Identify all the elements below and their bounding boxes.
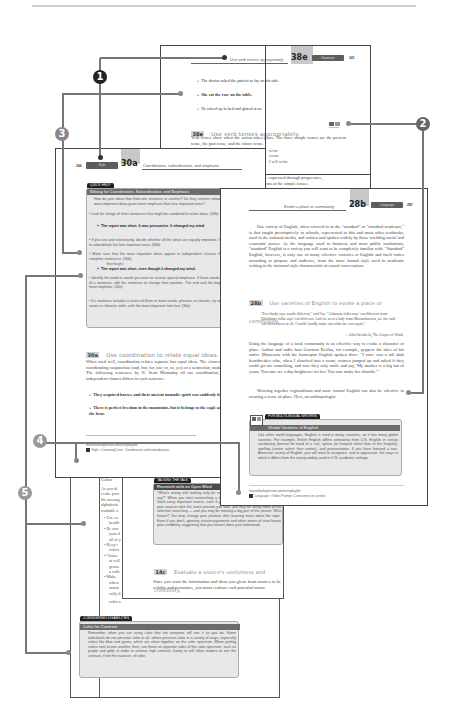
38e-notch (318, 45, 336, 49)
30a-header-title: Coordination, subordination, and emphasi… (143, 163, 219, 168)
28b-tab-pill: Language (371, 202, 403, 208)
28b-header-rule (249, 210, 346, 211)
section-badge: 30a (86, 352, 99, 358)
callout-3-dot-top (178, 91, 183, 96)
30a-page-number: 306 (76, 164, 82, 168)
callout-3-line-top (62, 93, 182, 95)
section-badge: 28b (249, 300, 263, 306)
callout-5-dot-mid (81, 521, 86, 526)
38e-example-3: » He raised up in bed and glared at us. (197, 106, 262, 112)
38e-header-rule (191, 63, 288, 64)
28b-quote: "Ever'body says words different," said I… (261, 312, 401, 327)
14c-body: Since you want the information and ideas… (153, 579, 281, 590)
callout-5-line-mid (25, 523, 83, 525)
30a-header-rule (142, 169, 242, 170)
multilingual-box: Global Varieties of English Like other w… (249, 419, 402, 476)
callout-5-line-v (25, 275, 27, 653)
38e-section: 38e (291, 53, 308, 62)
callout-5-line-bottom (25, 652, 67, 654)
28b-footer-link[interactable]: Language > Video Prompt: Correctness in … (249, 494, 325, 498)
28b-url[interactable]: macmillanhighered.com/everydaylife (249, 489, 301, 493)
callout-4-line-v2 (238, 442, 240, 492)
section-badge: 14c (154, 569, 167, 575)
multilingual-icon (250, 415, 263, 426)
callout-2-dot-2 (406, 390, 411, 395)
callout-5-line-top (25, 275, 80, 277)
callout-4-dot-2 (236, 490, 241, 495)
box-text: Like other world languages, English is u… (258, 433, 398, 461)
30a-footer-link[interactable]: Style > LearningCurve: Coordination and … (86, 448, 169, 452)
video-icon (249, 494, 253, 498)
38e-right-border (370, 45, 371, 188)
page-28b: Evoke a place or community 28b Language … (220, 188, 428, 506)
callout-1-dot-2 (98, 155, 103, 160)
28b-paragraph-2: Using the language of a local community … (249, 341, 404, 375)
38e-example-2: » She sat the vase on the table. (197, 92, 252, 98)
callout-3-dot-bottom (77, 250, 82, 255)
38e-left-partial-border (265, 45, 266, 190)
callout-4-line (40, 442, 240, 444)
28b-attribution: —John Steinbeck, The Grapes of Wrath (321, 333, 403, 337)
28b-paragraph-3: Weaving together regionalisms and more f… (249, 388, 404, 399)
color-partial-bottom: color a (109, 599, 121, 604)
callout-3: 3 (55, 127, 69, 141)
callout-1-dot (222, 55, 227, 60)
callout-4: 4 (33, 434, 47, 448)
28b-section: 28b (349, 200, 366, 209)
box-title: Color for Contrast (80, 624, 240, 630)
30a-tab-pill: Style (86, 162, 118, 169)
multilingual-icon: Multilingual (329, 122, 343, 130)
38e-page-number: 301 (349, 56, 355, 60)
38e-example-1: » The doctor asked the patient to lay on… (197, 78, 279, 84)
callout-5-dot-top (78, 273, 83, 278)
30a-footer-rule (86, 435, 196, 436)
38e-body: Verb tenses show when the action takes p… (191, 135, 346, 146)
callout-2: 2 (416, 117, 430, 131)
28b-footer-rule (249, 485, 404, 486)
38e-partial-tail: e expressed through progressive, rms of … (265, 175, 375, 186)
considering-disabilities-tab: CONSIDERING DISABILITIES (80, 616, 132, 621)
learningcurve-icon (86, 448, 90, 452)
box-text: Remember when you are using color that n… (88, 631, 236, 659)
28b-page-number: 287 (407, 203, 413, 207)
top-rule (32, 5, 416, 7)
callout-4-dot-1 (74, 458, 79, 463)
38e-tab-pill: Grammar (312, 55, 344, 61)
callout-5-dot-bottom (66, 650, 71, 655)
28b-header-title: Evoke a place or community (284, 204, 334, 209)
multilingual-tab: FOR MULTILINGUAL WRITERS (265, 414, 320, 419)
considering-disabilities-box: Color for Contrast Remember when you are… (79, 621, 239, 678)
talking-the-talk-tab: TALKING THE TALK (154, 478, 191, 483)
28b-paragraph-1: One variety of English, often referred t… (249, 224, 404, 269)
38e-partial: write wrote I will write (269, 148, 287, 164)
38e-header-title: Use verb tenses appropriately (230, 57, 283, 62)
callout-2-line-v (422, 130, 424, 394)
callout-1-line-h (100, 57, 223, 59)
callout-3-line-v (62, 93, 64, 253)
callout-2-dot (346, 121, 351, 126)
30a-section: 30a (121, 159, 138, 168)
14c-heading: 14c Evaluate a source's usefulness and c… (154, 560, 279, 596)
callout-5: 5 (18, 486, 32, 500)
section-heading: Use coordination to relate equal ideas. (106, 352, 218, 358)
box-title: Global Varieties of English (250, 425, 400, 431)
callout-1: 1 (93, 70, 107, 84)
callout-2-line (350, 123, 423, 125)
callout-2-line-h2 (410, 392, 424, 394)
quick-help-tab: QUICK HELP (87, 183, 114, 188)
